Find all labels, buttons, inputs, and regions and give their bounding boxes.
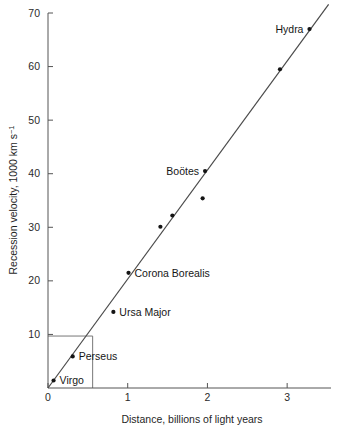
y-axis-tick-label: 20 bbox=[28, 274, 40, 286]
data-point-label: Corona Borealis bbox=[135, 267, 210, 279]
y-axis-tick-label: 60 bbox=[28, 60, 40, 72]
y-axis-tick-label: 70 bbox=[28, 7, 40, 19]
x-axis-tick-label: 2 bbox=[205, 391, 211, 403]
y-axis-title: Recession velocity, 1000 km s−1 bbox=[7, 125, 19, 274]
data-point bbox=[307, 27, 311, 31]
data-point bbox=[111, 310, 115, 314]
y-axis-tick-label: 40 bbox=[28, 167, 40, 179]
data-point bbox=[158, 225, 162, 229]
data-point bbox=[126, 271, 130, 275]
data-point bbox=[278, 67, 282, 71]
svg-text:Recession velocity, 1000 km s−: Recession velocity, 1000 km s−1 bbox=[7, 125, 19, 274]
data-point bbox=[201, 196, 205, 200]
data-point bbox=[170, 213, 174, 217]
data-point-label: Boötes bbox=[166, 165, 199, 177]
y-axis-tick-label: 30 bbox=[28, 221, 40, 233]
x-axis-tick-label: 3 bbox=[284, 391, 290, 403]
data-point bbox=[51, 378, 55, 382]
data-point bbox=[203, 169, 207, 173]
x-axis-tick-label: 1 bbox=[125, 391, 131, 403]
data-point-label: Hydra bbox=[275, 23, 303, 35]
data-point-label: Ursa Major bbox=[119, 306, 171, 318]
chart-svg: 102030405060700123 VirgoPerseusUrsa Majo… bbox=[0, 0, 348, 430]
y-axis-tick-label: 50 bbox=[28, 114, 40, 126]
y-axis-tick-label: 10 bbox=[28, 328, 40, 340]
x-axis-title: Distance, billions of light years bbox=[121, 413, 262, 425]
hubble-diagram-chart: 102030405060700123 VirgoPerseusUrsa Majo… bbox=[0, 0, 348, 430]
data-point-label: Virgo bbox=[60, 374, 84, 386]
x-axis-tick-label: 0 bbox=[45, 391, 51, 403]
data-point-label: Perseus bbox=[79, 350, 118, 362]
data-point bbox=[71, 354, 75, 358]
